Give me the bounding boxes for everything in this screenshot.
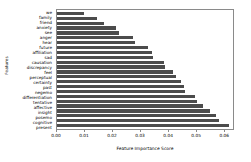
bar-row bbox=[57, 26, 233, 29]
bar-row bbox=[57, 80, 233, 83]
x-axis-tick-label: 0.05 bbox=[191, 133, 201, 138]
bar bbox=[57, 100, 197, 103]
x-axis-tick-label: 0.02 bbox=[107, 133, 117, 138]
bar bbox=[57, 95, 195, 98]
bar-row bbox=[57, 109, 233, 112]
x-axis-tick-label: 0.04 bbox=[163, 133, 173, 138]
bar-row bbox=[57, 75, 233, 78]
bar-row bbox=[57, 95, 233, 98]
bar bbox=[57, 80, 181, 83]
bar bbox=[57, 109, 210, 112]
bar bbox=[57, 56, 153, 59]
bar bbox=[57, 51, 152, 54]
bar-row bbox=[57, 119, 233, 122]
bar-row bbox=[57, 56, 233, 59]
bar bbox=[57, 61, 164, 64]
y-axis-tick-label: present bbox=[8, 125, 54, 130]
bar-row bbox=[57, 114, 233, 117]
x-axis-tick-label: 0.01 bbox=[79, 133, 89, 138]
bar bbox=[57, 114, 216, 117]
bar bbox=[57, 31, 119, 34]
bar-row bbox=[57, 104, 233, 107]
bar-row bbox=[57, 41, 233, 44]
bar bbox=[57, 65, 165, 68]
bar bbox=[57, 104, 203, 107]
bar-row bbox=[57, 46, 233, 49]
bar-row bbox=[57, 100, 233, 103]
x-axis-tick-label: 0.06 bbox=[219, 133, 229, 138]
bar bbox=[57, 70, 173, 73]
bar-row bbox=[57, 70, 233, 73]
bar bbox=[57, 26, 116, 29]
plot-area bbox=[56, 9, 234, 130]
bar-row bbox=[57, 124, 233, 127]
bar bbox=[57, 75, 176, 78]
bar-row bbox=[57, 31, 233, 34]
bar-row bbox=[57, 17, 233, 20]
y-axis-tick-labels: wefamilyfriendanxietyseeangerhearfuturea… bbox=[8, 10, 54, 130]
x-axis-tick-label: 0.00 bbox=[51, 133, 61, 138]
bar bbox=[57, 124, 229, 127]
bar-row bbox=[57, 65, 233, 68]
bar bbox=[57, 12, 84, 15]
feature-importance-chart: Features wefamilyfriendanxietyseeangerhe… bbox=[0, 0, 251, 162]
bar-series bbox=[57, 10, 233, 129]
bar bbox=[57, 90, 185, 93]
bar bbox=[57, 46, 148, 49]
bar-row bbox=[57, 61, 233, 64]
bar-row bbox=[57, 51, 233, 54]
x-axis-ticks: 0.000.010.020.030.040.050.06 bbox=[56, 130, 234, 140]
x-axis-title: Feature Importance Score bbox=[56, 146, 234, 151]
x-axis-tick-label: 0.03 bbox=[135, 133, 145, 138]
bar-row bbox=[57, 22, 233, 25]
bar-row bbox=[57, 36, 233, 39]
bar bbox=[57, 36, 133, 39]
bar-row bbox=[57, 90, 233, 93]
bar-row bbox=[57, 12, 233, 15]
bar bbox=[57, 41, 135, 44]
bar-row bbox=[57, 85, 233, 88]
bar bbox=[57, 119, 219, 122]
bar bbox=[57, 22, 104, 25]
bar bbox=[57, 17, 97, 20]
bar bbox=[57, 85, 184, 88]
